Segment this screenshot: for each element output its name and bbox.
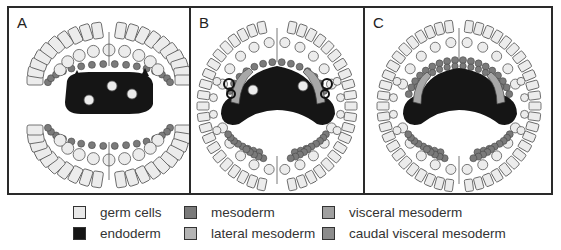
- legend-item-endoderm: endoderm: [73, 225, 161, 241]
- embryo-cross-section-b: [191, 6, 363, 195]
- endoderm-mass: [65, 72, 153, 114]
- embryo-cross-section-a: [9, 6, 189, 195]
- legend: germ cells mesoderm visceral mesoderm en…: [0, 198, 561, 250]
- lateral-mesoderm-swatch: [184, 227, 197, 240]
- legend-item-caudal-visceral-mesoderm: caudal visceral mesoderm: [322, 225, 506, 241]
- caudal-visceral-mesoderm-swatch: [322, 227, 335, 240]
- legend-label: visceral mesoderm: [349, 205, 462, 220]
- legend-label: caudal visceral mesoderm: [349, 226, 506, 241]
- legend-label: mesoderm: [211, 205, 275, 220]
- visceral-mesoderm-swatch: [322, 206, 335, 219]
- legend-label: lateral mesoderm: [211, 226, 315, 241]
- legend-item-mesoderm: mesoderm: [184, 204, 275, 220]
- panel-b: B: [191, 6, 363, 195]
- endoderm-swatch: [73, 227, 86, 240]
- germ-cells-swatch: [73, 206, 86, 219]
- mesoderm-swatch: [184, 206, 197, 219]
- legend-label: germ cells: [100, 205, 162, 220]
- legend-label: endoderm: [100, 226, 161, 241]
- panel-a: A: [9, 6, 189, 195]
- legend-item-visceral-mesoderm: visceral mesoderm: [322, 204, 462, 220]
- legend-item-germ-cells: germ cells: [73, 204, 162, 220]
- legend-item-lateral-mesoderm: lateral mesoderm: [184, 225, 315, 241]
- panel-c: C: [365, 6, 553, 195]
- embryo-cross-section-c: [365, 6, 553, 195]
